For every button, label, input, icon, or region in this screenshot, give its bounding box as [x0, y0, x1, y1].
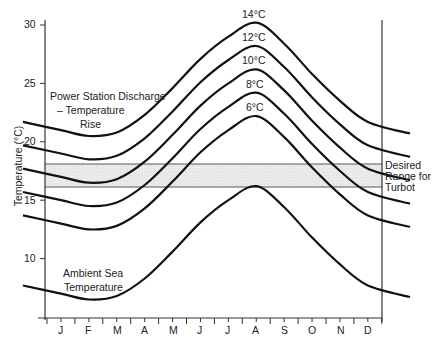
ambient-annotation-line2: Temperature	[64, 281, 123, 293]
discharge-annotation-line3: Rise	[80, 118, 101, 130]
month-sep: S	[281, 324, 288, 336]
ytick-20: 20	[24, 135, 36, 147]
ambient-annotation-line1: Ambient Sea	[63, 267, 123, 279]
curve-label-14: 14°C	[242, 8, 265, 20]
curve-label-12: 12°C	[242, 31, 265, 43]
ytick-10: 10	[24, 252, 36, 264]
month-may: M	[169, 324, 178, 336]
discharge-annotation-line1: Power Station Discharge	[50, 90, 166, 102]
month-oct: O	[308, 324, 316, 336]
month-jan: J	[58, 324, 63, 336]
month-mar: M	[113, 324, 122, 336]
ytick-15: 15	[24, 194, 36, 206]
month-aug: A	[252, 324, 259, 336]
month-jul: J	[225, 324, 230, 336]
curve-label-8: 8°C	[246, 78, 264, 90]
ytick-25: 25	[24, 77, 36, 89]
curve-label-10: 10°C	[242, 54, 265, 66]
y-axis-label: Temperature (°C)	[12, 126, 24, 207]
curve-label-6: 6°C	[246, 101, 264, 113]
discharge-annotation-line2: – Temperature	[57, 104, 125, 116]
month-dec: D	[364, 324, 372, 336]
x-ticks	[47, 318, 382, 324]
month-jun: J	[197, 324, 202, 336]
month-nov: N	[337, 324, 345, 336]
curve-12-c	[23, 46, 410, 160]
month-feb: F	[85, 324, 91, 336]
ytick-30: 30	[24, 18, 36, 30]
y-ticks	[40, 25, 45, 259]
band-annotation-line3: Turbot	[385, 182, 415, 193]
month-apr: A	[141, 324, 148, 336]
temperature-curves	[23, 23, 410, 300]
